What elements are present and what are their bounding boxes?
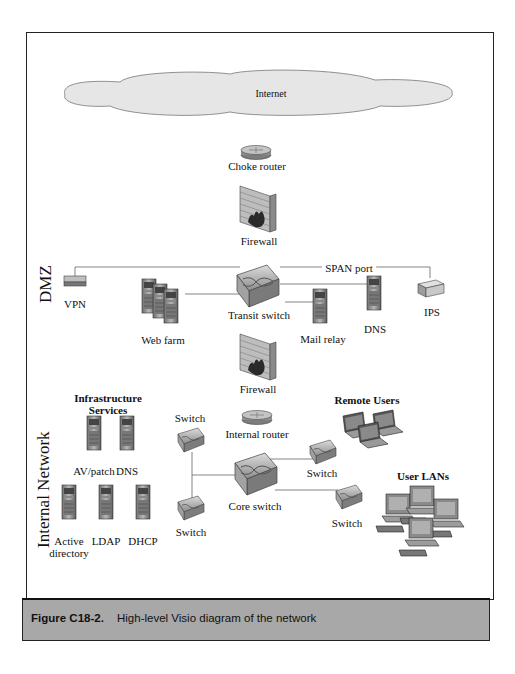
network-diagram [0, 0, 515, 674]
remote-users-laptops-icon [343, 410, 403, 448]
vpn-icon [64, 276, 86, 286]
active-directory-label-line2: directory [49, 547, 89, 559]
switch-left-bottom-label: Switch [176, 526, 207, 538]
switch-left-top-icon [178, 428, 204, 452]
transit-switch-label: Transit switch [228, 309, 290, 321]
infrastructure-services-title-line1: Infrastructure [74, 392, 142, 404]
figure-caption-bar: Figure C18-2. High-level Visio diagram o… [22, 598, 490, 641]
remote-users-label: Remote Users [334, 394, 399, 406]
firewall-bottom-icon [240, 334, 276, 380]
zone-label-internal-network: Internal Network [34, 431, 54, 548]
zone-label-dmz: DMZ [36, 265, 56, 303]
switch-right-bottom-icon [336, 485, 362, 509]
internal-router-icon [242, 411, 272, 425]
firewall-top-label: Firewall [241, 235, 278, 247]
choke-router-label: Choke router [228, 160, 286, 172]
switch-left-top-label: Switch [175, 412, 206, 424]
dns-dmz-label: DNS [364, 323, 386, 335]
ips-label: IPS [424, 306, 440, 318]
figure-caption-text: High-level Visio diagram of the network [117, 612, 316, 624]
choke-router-icon [241, 146, 271, 160]
av-patch-server-icon [87, 416, 101, 450]
dns-internal-server-icon [120, 416, 134, 450]
span-port-label: SPAN port [322, 262, 376, 274]
dns-internal-label: DNS [116, 465, 138, 477]
web-farm-label: Web farm [141, 334, 184, 346]
web-farm-icon [142, 279, 178, 323]
dns-dmz-server-icon [367, 276, 381, 310]
internet-label: Internet [255, 88, 286, 100]
dhcp-label: DHCP [128, 535, 157, 547]
mail-relay-label: Mail relay [300, 333, 346, 345]
user-lans-desktops-icon [376, 486, 464, 556]
figure-number: Figure C18-2. [31, 612, 104, 624]
internal-router-label: Internal router [225, 428, 288, 440]
av-patch-label: AV/patch [73, 465, 114, 477]
active-directory-server-icon [62, 485, 76, 519]
switch-right-top-label: Switch [307, 467, 338, 479]
core-switch-label: Core switch [229, 500, 282, 512]
core-switch-icon [235, 453, 277, 495]
mail-relay-server-icon [313, 289, 327, 323]
ldap-label: LDAP [92, 535, 121, 547]
infrastructure-services-title-line2: Services [89, 404, 127, 416]
user-lans-label: User LANs [397, 470, 449, 482]
active-directory-label-line1: Active [54, 535, 83, 547]
vpn-label: VPN [64, 298, 86, 310]
firewall-top-icon [240, 186, 276, 232]
ldap-server-icon [99, 485, 113, 519]
ips-icon [418, 280, 444, 297]
dhcp-server-icon [136, 485, 150, 519]
firewall-bottom-label: Firewall [240, 383, 277, 395]
switch-left-bottom-icon [178, 496, 204, 520]
switch-right-top-icon [310, 440, 336, 464]
transit-switch-icon [237, 265, 279, 307]
switch-right-bottom-label: Switch [332, 517, 363, 529]
